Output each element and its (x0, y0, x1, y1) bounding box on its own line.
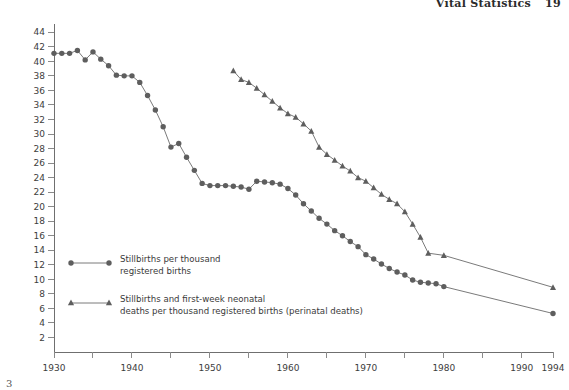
data-point (246, 187, 251, 192)
data-point (82, 57, 87, 62)
y-tick-label: 24 (34, 173, 46, 183)
y-tick-label: 22 (34, 187, 45, 197)
data-point (339, 163, 345, 169)
data-point (550, 311, 555, 316)
data-point (160, 124, 165, 129)
x-tick-label: 1970 (354, 363, 377, 373)
x-tick-label: 1990 (510, 363, 533, 373)
data-point (379, 261, 384, 266)
data-point (67, 51, 72, 56)
y-tick-label: 6 (39, 304, 45, 314)
x-axis: 19301940195019601970198019901994 (43, 352, 565, 373)
data-point (199, 181, 204, 186)
data-point (254, 179, 259, 184)
data-point (332, 228, 337, 233)
y-tick-label: 20 (34, 202, 46, 212)
data-point (215, 183, 220, 188)
data-point (231, 184, 236, 189)
data-point (277, 181, 282, 186)
data-point (371, 256, 376, 261)
x-tick-label: 1930 (43, 363, 66, 373)
data-point (285, 110, 291, 116)
y-tick-label: 36 (34, 86, 46, 96)
x-tick-label: 1960 (276, 363, 299, 373)
data-point (441, 284, 446, 289)
data-point (238, 184, 243, 189)
data-point (270, 180, 275, 185)
data-point (145, 93, 150, 98)
data-point (410, 277, 415, 282)
y-tick-label: 38 (34, 71, 46, 81)
y-axis: 2468101214161820222426283032343638404244 (34, 24, 54, 352)
data-point (184, 155, 189, 160)
legend-label-perinatal: Stillbirths and first-week neonatal deat… (120, 294, 363, 317)
series-perinatal (230, 68, 556, 290)
data-point (254, 85, 260, 91)
data-point (386, 196, 392, 202)
data-point (207, 183, 212, 188)
legend-label-stillbirths: Stillbirths per thousand registered birt… (120, 254, 221, 277)
data-point (355, 244, 360, 249)
data-point (98, 56, 103, 61)
data-point (137, 80, 142, 85)
data-point (301, 201, 306, 206)
data-point (168, 144, 173, 149)
y-tick-label: 10 (34, 275, 46, 285)
data-point (426, 280, 431, 285)
data-point (106, 63, 111, 68)
data-point (340, 233, 345, 238)
data-point (309, 208, 314, 213)
legend-item-stillbirths: Stillbirths per thousand registered birt… (66, 254, 221, 277)
y-tick-label: 40 (34, 57, 46, 67)
triangle-marker-icon (66, 296, 114, 310)
data-point (176, 141, 181, 146)
y-tick-label: 32 (34, 115, 45, 125)
data-point (316, 144, 322, 150)
y-tick-label: 42 (34, 42, 45, 52)
data-point (285, 186, 290, 191)
y-tick-label: 26 (34, 158, 46, 168)
data-point (129, 73, 134, 78)
data-point (192, 168, 197, 173)
data-point (293, 192, 298, 197)
data-point (223, 183, 228, 188)
footnote-marker: 3 (6, 378, 12, 389)
data-point (59, 51, 64, 56)
data-point (316, 216, 321, 221)
circle-marker-icon (66, 256, 114, 270)
y-tick-label: 2 (39, 333, 45, 343)
data-point (51, 51, 56, 56)
series-line (233, 71, 553, 288)
data-point (348, 239, 353, 244)
data-point (402, 272, 407, 277)
y-tick-label: 34 (34, 100, 46, 110)
data-point (394, 269, 399, 274)
x-tick-label: 1940 (121, 363, 144, 373)
data-point (153, 107, 158, 112)
x-tick-label: 1980 (432, 363, 455, 373)
data-point (425, 250, 431, 256)
x-tick-label: 1994 (542, 363, 565, 373)
legend-item-perinatal: Stillbirths and first-week neonatal deat… (66, 294, 363, 317)
data-point (324, 221, 329, 226)
data-point (347, 168, 353, 174)
data-point (114, 72, 119, 77)
data-point (90, 49, 95, 54)
y-tick-label: 16 (34, 231, 46, 241)
y-tick-label: 28 (34, 144, 46, 154)
x-tick-label: 1950 (198, 363, 221, 373)
data-point (433, 281, 438, 286)
data-point (394, 201, 400, 207)
y-tick-label: 12 (34, 260, 45, 270)
data-point (75, 48, 80, 53)
data-point (418, 280, 423, 285)
data-point (121, 73, 126, 78)
perinatal-mortality-chart: 2468101214161820222426283032343638404244… (0, 0, 569, 390)
data-point (293, 114, 299, 120)
y-tick-label: 30 (34, 129, 46, 139)
y-tick-label: 4 (39, 318, 45, 328)
data-point (332, 157, 338, 163)
y-tick-label: 14 (34, 245, 46, 255)
data-point (262, 179, 267, 184)
y-tick-label: 44 (34, 27, 46, 37)
